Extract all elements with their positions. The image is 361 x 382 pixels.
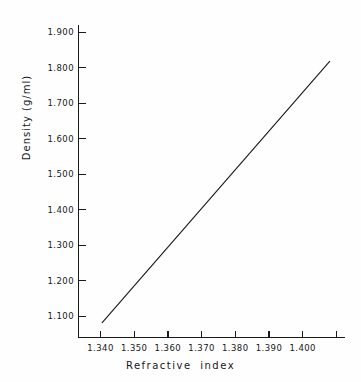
y-tick-label: 1.300 [26, 241, 74, 250]
x-tick-label: 1.380 [222, 344, 249, 353]
series-density-vs-refractive-index [102, 61, 329, 322]
y-tick-label: 1.100 [26, 312, 74, 321]
chart-figure: 1.900 1.800 1.700 1.600 1.500 1.400 1.30… [0, 0, 361, 382]
x-axis-title: Refractive index [0, 360, 361, 371]
x-tick-label: 1.390 [256, 344, 283, 353]
y-axis-ticks [79, 32, 86, 316]
axis-spines [78, 25, 345, 338]
x-tick-label: 1.400 [289, 344, 316, 353]
y-tick-label: 1.500 [26, 170, 74, 179]
x-tick-label: 1.340 [87, 344, 114, 353]
y-tick-label: 1.600 [26, 135, 74, 144]
x-tick-label: 1.350 [121, 344, 148, 353]
y-tick-label: 1.700 [26, 99, 74, 108]
x-tick-label: 1.360 [155, 344, 182, 353]
x-tick-label: 1.370 [188, 344, 215, 353]
data-series-line [102, 61, 329, 322]
y-tick-label: 1.800 [26, 64, 74, 73]
plot-canvas [0, 0, 361, 382]
y-tick-label: 1.200 [26, 277, 74, 286]
y-tick-label: 1.900 [26, 28, 74, 37]
y-tick-label: 1.400 [26, 206, 74, 215]
y-axis-title: Density (g/ml) [21, 48, 32, 188]
x-axis-ticks [101, 331, 337, 337]
